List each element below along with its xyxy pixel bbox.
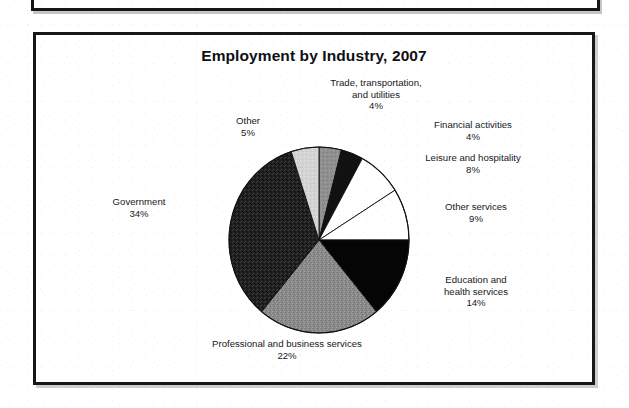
pie-label-value: 14% bbox=[416, 297, 536, 309]
pie-label-financial-activities: Financial activities 4% bbox=[398, 119, 548, 142]
pie-label-professional-and-business-services: Professional and business services 22% bbox=[172, 338, 402, 361]
pie-label-line2: health services bbox=[416, 286, 536, 298]
pie-label-education-and-health-services: Education and health services 14% bbox=[416, 274, 536, 309]
pie-label-other: Other 5% bbox=[196, 115, 300, 138]
pie-label-line1: Financial activities bbox=[398, 119, 548, 131]
pie-label-line1: Trade, transportation, bbox=[296, 77, 456, 89]
pie-label-trade-transportation-utilities: Trade, transportation, and utilities 4% bbox=[296, 77, 456, 112]
pie-label-line2: and utilities bbox=[296, 89, 456, 101]
figure-inner: Employment by Industry, 2007 bbox=[36, 35, 592, 382]
chart-title: Employment by Industry, 2007 bbox=[36, 47, 592, 65]
pie-label-value: 8% bbox=[391, 164, 555, 176]
pie-label-value: 4% bbox=[398, 131, 548, 143]
pie-label-value: 34% bbox=[74, 208, 204, 220]
pie-chart bbox=[228, 146, 410, 334]
pie-chart-svg bbox=[228, 146, 410, 334]
pie-slice-group bbox=[229, 147, 409, 333]
pie-label-government: Government 34% bbox=[74, 196, 204, 219]
pie-label-value: 9% bbox=[412, 213, 540, 225]
pie-label-leisure-and-hospitality: Leisure and hospitality 8% bbox=[391, 152, 555, 175]
pie-label-other-services: Other services 9% bbox=[412, 201, 540, 224]
pie-label-value: 5% bbox=[196, 127, 300, 139]
pie-label-value: 4% bbox=[296, 100, 456, 112]
scanned-page: Employment by Industry, 2007 bbox=[0, 0, 629, 408]
pie-label-value: 22% bbox=[172, 350, 402, 362]
pie-label-line1: Other services bbox=[412, 201, 540, 213]
previous-figure-frame-edge bbox=[31, 0, 600, 11]
pie-label-line1: Leisure and hospitality bbox=[391, 152, 555, 164]
pie-label-line1: Government bbox=[74, 196, 204, 208]
pie-label-line1: Professional and business services bbox=[172, 338, 402, 350]
pie-label-line1: Other bbox=[196, 115, 300, 127]
pie-label-line1: Education and bbox=[416, 274, 536, 286]
figure-frame: Employment by Industry, 2007 bbox=[33, 32, 595, 385]
